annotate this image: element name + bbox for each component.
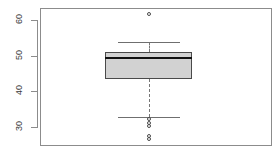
y-tick-mark-30 [31, 127, 38, 128]
outlier-point [147, 137, 151, 141]
y-tick-mark-50 [31, 56, 38, 57]
upper-whisker-line [149, 42, 150, 53]
y-tick-label-40: 40 [14, 79, 24, 101]
boxplot-figure: 60 50 40 30 [0, 0, 279, 155]
y-tick-label-50: 50 [14, 44, 24, 66]
median-line [105, 57, 192, 59]
y-axis-line [37, 20, 38, 126]
y-tick-mark-60 [31, 20, 38, 21]
y-tick-label-30: 30 [14, 115, 24, 137]
outlier-point [147, 124, 151, 128]
outlier-point [147, 12, 151, 16]
upper-whisker-cap [118, 42, 180, 43]
y-tick-mark-40 [31, 91, 38, 92]
lower-whisker-line [149, 79, 150, 117]
y-tick-label-60: 60 [14, 8, 24, 30]
